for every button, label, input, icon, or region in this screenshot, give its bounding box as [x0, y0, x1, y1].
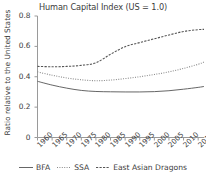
legend-label: BFA — [36, 163, 50, 172]
chart-legend: BFASSAEast Asian Dragons — [0, 163, 206, 172]
legend-item[interactable]: BFA — [19, 163, 50, 172]
legend-line-swatch — [19, 164, 33, 171]
legend-line-swatch — [57, 164, 71, 171]
data-series-group — [38, 29, 205, 92]
plot-area — [0, 0, 206, 186]
y-tick-label: 0.4 — [9, 72, 31, 81]
series-line — [38, 62, 205, 81]
axis-lines — [38, 16, 205, 138]
y-tick-label: 0.2 — [9, 102, 31, 111]
human-capital-index-chart: Human Capital Index (US = 1.0) Ratio rel… — [0, 0, 206, 186]
series-line — [38, 81, 205, 92]
legend-label: East Asian Dragons — [113, 163, 187, 172]
legend-item[interactable]: SSA — [57, 163, 89, 172]
y-tick-label: 0.6 — [9, 41, 31, 50]
legend-label: SSA — [74, 163, 89, 172]
y-tick-label: 0.8 — [9, 11, 31, 20]
legend-line-swatch — [96, 164, 110, 171]
y-tick-label: 0 — [9, 133, 31, 142]
series-line — [38, 29, 205, 66]
legend-item[interactable]: East Asian Dragons — [96, 163, 187, 172]
